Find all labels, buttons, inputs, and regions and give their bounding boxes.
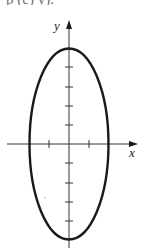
y-axis-label: y bbox=[52, 18, 60, 33]
ellipse-graph: y x bbox=[0, 0, 153, 249]
speck bbox=[44, 197, 45, 198]
y-axis-arrow-icon bbox=[66, 20, 72, 29]
x-axis-label: x bbox=[128, 145, 135, 160]
